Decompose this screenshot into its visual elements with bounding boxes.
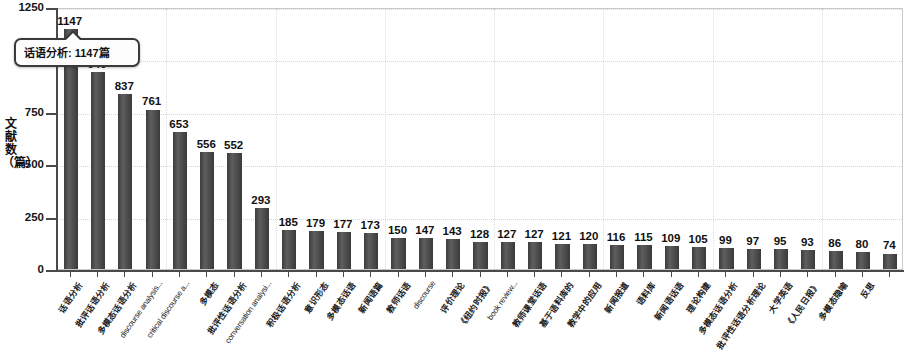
gridline-vertical [276, 9, 277, 269]
bar[interactable] [555, 244, 569, 269]
bar[interactable] [747, 249, 761, 269]
x-tick-mark [70, 270, 71, 277]
x-tick-mark [807, 270, 808, 277]
bar-value-label: 93 [793, 236, 821, 248]
y-tick-mark [46, 113, 56, 115]
x-tick-mark [152, 270, 153, 277]
bar[interactable] [856, 252, 870, 269]
bar[interactable] [501, 242, 515, 269]
x-tick-label: 新闻报道 [601, 279, 631, 315]
x-tick-mark [261, 270, 262, 277]
bar-value-label: 127 [520, 228, 548, 240]
gridline-horizontal [57, 61, 902, 62]
x-tick-mark [725, 270, 726, 277]
bar[interactable] [200, 152, 214, 269]
bar[interactable] [446, 239, 460, 269]
bar[interactable] [419, 238, 433, 269]
gridline-vertical [822, 9, 823, 269]
bar-value-label: 653 [165, 118, 193, 130]
bar-value-label: 293 [247, 194, 275, 206]
y-tick-label: 1250 [0, 1, 44, 13]
bar[interactable] [528, 242, 542, 269]
bar-value-label: 761 [138, 95, 166, 107]
y-tick-label: 250 [0, 211, 44, 223]
x-tick-mark [561, 270, 562, 277]
bar[interactable] [146, 110, 160, 270]
y-tick-label: 500 [0, 158, 44, 170]
x-tick-label: 语料库 [633, 279, 658, 308]
x-tick-mark [835, 270, 836, 277]
bar-value-label: 97 [739, 235, 767, 247]
bar[interactable] [583, 244, 597, 269]
chart-tooltip: 话语分析: 1147篇 [14, 38, 140, 67]
bar-value-label: 120 [575, 230, 603, 242]
bar[interactable] [309, 231, 323, 269]
bar-value-label: 99 [711, 234, 739, 246]
x-tick-label: 新闻语篇 [355, 279, 385, 315]
gridline-horizontal [57, 9, 902, 10]
bar[interactable] [774, 249, 788, 269]
bar-value-label: 74 [875, 239, 903, 251]
bar[interactable] [719, 248, 733, 269]
bar-chart-container: 文献数（篇） 025050075010001250 话语分析批评话语分析多模态话… [0, 0, 909, 358]
x-tick-mark [589, 270, 590, 277]
bar[interactable] [829, 251, 843, 269]
x-tick-mark [124, 270, 125, 277]
x-tick-mark [288, 270, 289, 277]
x-tick-mark [862, 270, 863, 277]
bar-value-label: 552 [220, 139, 248, 151]
bar-value-label: 179 [302, 217, 330, 229]
x-tick-label: 批评性话语分析理论 [712, 279, 767, 351]
bar[interactable] [255, 208, 269, 269]
y-tick-label: 0 [0, 263, 44, 275]
bar-value-label: 128 [466, 228, 494, 240]
y-tick-label: 750 [0, 106, 44, 118]
x-tick-mark [534, 270, 535, 277]
x-tick-mark [370, 270, 371, 277]
bar[interactable] [692, 247, 706, 269]
bar-value-label: 837 [110, 80, 138, 92]
bar[interactable] [473, 242, 487, 269]
x-tick-mark [452, 270, 453, 277]
x-tick-mark [507, 270, 508, 277]
x-tick-mark [698, 270, 699, 277]
bar-value-label: 86 [821, 237, 849, 249]
x-tick-mark [616, 270, 617, 277]
x-tick-label: 多模态 [196, 279, 221, 308]
bar-value-label: 95 [766, 235, 794, 247]
bar[interactable] [391, 238, 405, 269]
bar-value-label: 177 [329, 218, 357, 230]
bar[interactable] [637, 245, 651, 269]
x-tick-mark [889, 270, 890, 277]
x-tick-mark [343, 270, 344, 277]
x-tick-label: 教师话语 [382, 279, 412, 315]
tooltip-arrow-inner [66, 33, 80, 40]
bar[interactable] [173, 132, 187, 269]
bar[interactable] [364, 233, 378, 269]
bar[interactable] [801, 250, 815, 269]
bar-value-label: 116 [602, 231, 630, 243]
x-tick-mark [671, 270, 672, 277]
bar[interactable] [883, 254, 897, 270]
x-tick-mark [97, 270, 98, 277]
bar-value-label: 185 [274, 216, 302, 228]
x-tick-mark [179, 270, 180, 277]
x-tick-mark [425, 270, 426, 277]
bar-value-label: 80 [848, 238, 876, 250]
gridline-vertical [713, 9, 714, 269]
bar-value-label: 115 [629, 231, 657, 243]
bar[interactable] [227, 153, 241, 269]
bar[interactable] [91, 72, 105, 269]
bar[interactable] [118, 94, 132, 269]
bar[interactable] [282, 230, 296, 269]
gridline-horizontal [57, 114, 902, 115]
bar[interactable] [337, 232, 351, 269]
bar-value-label: 109 [657, 232, 685, 244]
y-tick-mark [46, 270, 56, 272]
bar-value-label: 150 [384, 224, 412, 236]
x-tick-mark [480, 270, 481, 277]
bar[interactable] [610, 245, 624, 269]
bar[interactable] [665, 246, 679, 269]
bar-value-label: 121 [547, 230, 575, 242]
bar-value-label: 143 [438, 225, 466, 237]
